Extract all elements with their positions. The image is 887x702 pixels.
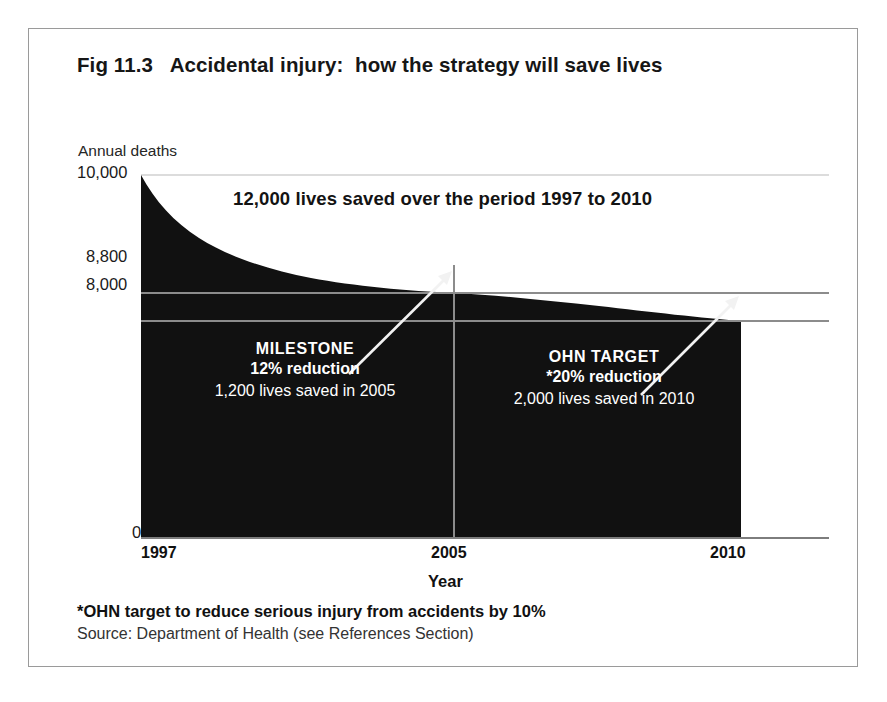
callout-milestone-subheading: 12% reduction xyxy=(170,359,440,380)
y-tick-label-10000: 10,000 xyxy=(77,163,127,182)
x-tick-label-1997: 1997 xyxy=(141,544,177,562)
footnote-source: Source: Department of Health (see Refere… xyxy=(77,625,474,643)
callout-milestone-heading: MILESTONE xyxy=(170,339,440,359)
y-tick-label-8800: 8,800 xyxy=(86,247,127,266)
footnote-ohn-target: *OHN target to reduce serious injury fro… xyxy=(77,602,546,621)
x-axis-title: Year xyxy=(428,572,463,591)
x-tick-label-2010: 2010 xyxy=(710,544,746,562)
callout-milestone-note: 1,200 lives saved in 2005 xyxy=(170,380,440,402)
callout-ohn-heading: OHN TARGET xyxy=(469,347,739,367)
callout-ohn-target: OHN TARGET *20% reduction 2,000 lives sa… xyxy=(469,347,739,409)
callout-ohn-subheading: *20% reduction xyxy=(469,367,739,388)
callout-ohn-note: 2,000 lives saved in 2010 xyxy=(469,388,739,410)
y-axis-title: Annual deaths xyxy=(78,142,177,160)
y-tick-label-0: 0 xyxy=(132,523,141,542)
x-tick-label-2005: 2005 xyxy=(431,544,467,562)
callout-milestone: MILESTONE 12% reduction 1,200 lives save… xyxy=(170,339,440,401)
chart-headline: 12,000 lives saved over the period 1997 … xyxy=(233,188,652,210)
y-tick-label-8000: 8,000 xyxy=(86,275,127,294)
figure-frame: Fig 11.3 Accidental injury: how the stra… xyxy=(28,28,858,667)
